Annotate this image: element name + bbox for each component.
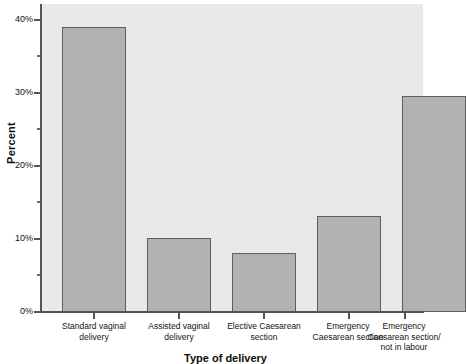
x-tick-label-2-line-1: Assisted vaginal bbox=[134, 321, 224, 332]
x-tick-label-5-line-3: not in labour bbox=[354, 342, 454, 353]
bar-standard-vaginal-delivery bbox=[62, 27, 126, 312]
x-tick-label-2: Assisted vaginal delivery bbox=[134, 321, 224, 342]
x-tick-3 bbox=[263, 313, 265, 319]
bar-elective-caesarean-section bbox=[232, 253, 296, 312]
x-tick-label-3-line-1: Elective Caesarean bbox=[217, 321, 311, 332]
plot-area bbox=[41, 4, 423, 312]
x-tick-4 bbox=[348, 313, 350, 319]
x-tick-label-5-line-2: Caesarean section/ bbox=[354, 332, 454, 343]
x-axis-title: Type of delivery bbox=[0, 352, 451, 364]
y-tick-label-0: 0% bbox=[1, 307, 33, 316]
x-tick-label-5: Emergency Caesarean section/ not in labo… bbox=[354, 321, 454, 353]
x-tick-1 bbox=[93, 313, 95, 319]
x-tick-label-3: Elective Caesarean section bbox=[217, 321, 311, 342]
bar-emergency-caesarean-not-in-labour bbox=[402, 96, 466, 312]
x-axis-line bbox=[40, 311, 424, 313]
y-tick-label-40: 40% bbox=[1, 15, 33, 24]
y-axis-line bbox=[40, 4, 42, 313]
y-tick-label-30: 30% bbox=[1, 88, 33, 97]
bar-assisted-vaginal-delivery bbox=[147, 238, 211, 312]
y-axis-tick-labels: 40% 30% 20% 10% 0% bbox=[0, 0, 33, 362]
x-tick-5 bbox=[404, 313, 406, 319]
x-tick-label-5-line-1: Emergency bbox=[354, 321, 454, 332]
x-tick-label-1-line-2: delivery bbox=[49, 332, 139, 343]
y-tick-label-10: 10% bbox=[1, 234, 33, 243]
x-tick-label-3-line-2: section bbox=[217, 332, 311, 343]
x-tick-2 bbox=[178, 313, 180, 319]
y-tick-label-20: 20% bbox=[1, 161, 33, 170]
bar-emergency-caesarean-section bbox=[317, 216, 381, 312]
x-tick-label-1-line-1: Standard vaginal bbox=[49, 321, 139, 332]
x-tick-label-1: Standard vaginal delivery bbox=[49, 321, 139, 342]
x-tick-label-2-line-2: delivery bbox=[134, 332, 224, 343]
